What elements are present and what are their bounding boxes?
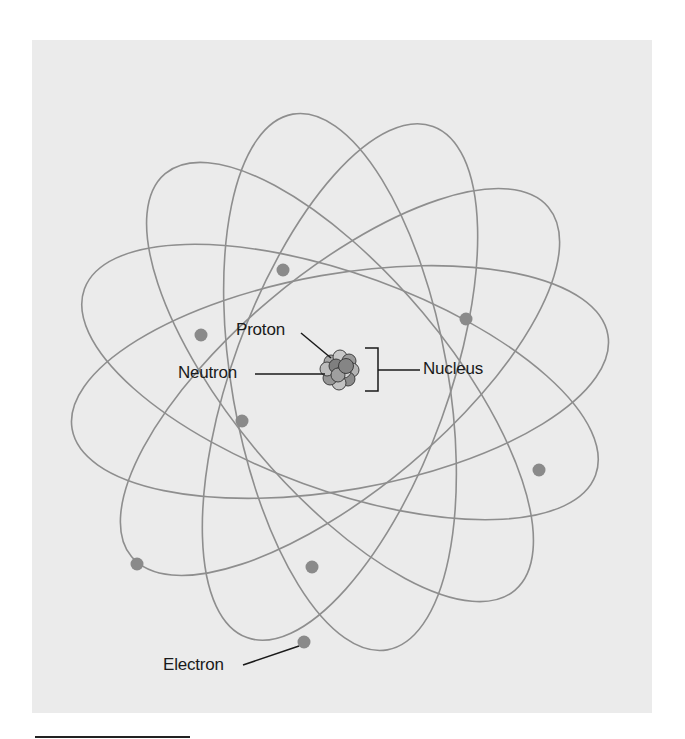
electron-icon (195, 329, 208, 342)
electron-icon (236, 415, 249, 428)
electron-icon (306, 561, 319, 574)
nucleus-label: Nucleus (423, 359, 483, 379)
nucleus-icon (320, 350, 359, 390)
electron-icon (460, 313, 473, 326)
atom-diagram (0, 0, 685, 739)
electron-icon (533, 464, 546, 477)
electron-icon (277, 264, 290, 277)
proton-label: Proton (236, 320, 285, 340)
electrons (131, 264, 546, 649)
footnote-rule (35, 736, 190, 738)
electron-pointer (243, 646, 299, 665)
electron-label: Electron (163, 655, 224, 675)
neutron-label: Neutron (178, 363, 237, 383)
electron-icon (131, 558, 144, 571)
proton-pointer (301, 333, 331, 358)
nucleus-bracket (365, 348, 378, 391)
electron-icon (298, 636, 311, 649)
